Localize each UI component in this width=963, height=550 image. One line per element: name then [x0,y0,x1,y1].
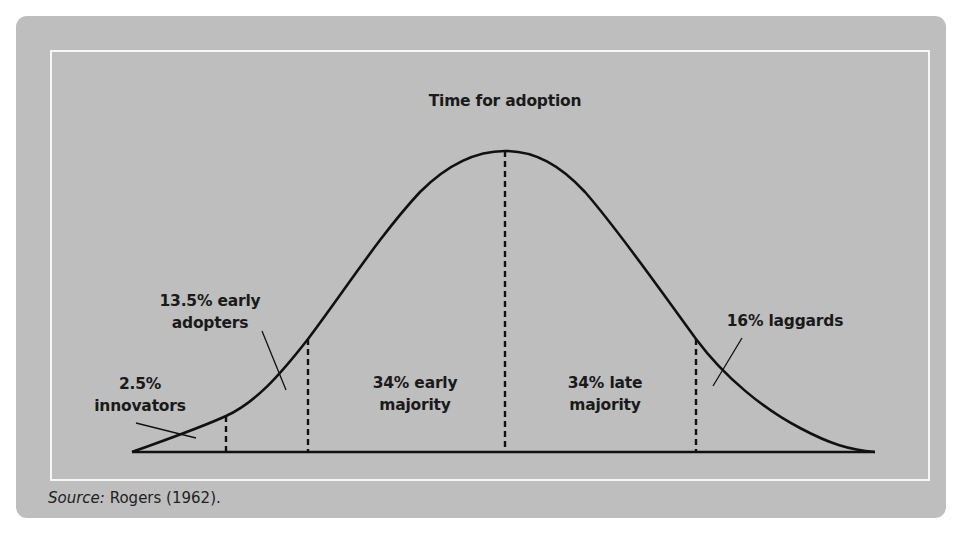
label-innovators: 2.5% innovators [80,373,200,417]
adoption-curve-chart [0,0,963,550]
source-note: Source: Rogers (1962). [48,489,221,507]
label-early-majority-name: majority [350,394,480,416]
label-late-majority: 34% late majority [540,372,670,416]
chart-title: Time for adoption [400,90,610,112]
label-early-majority-pct: 34% early [350,372,480,394]
leader-laggards [713,338,742,386]
label-late-majority-name: majority [540,394,670,416]
label-laggards-text: 16% laggards [710,310,860,332]
label-laggards: 16% laggards [710,310,860,332]
label-early-adopters: 13.5% early adopters [140,290,280,334]
label-innovators-pct: 2.5% [80,373,200,395]
label-early-adopters-name: adopters [140,312,280,334]
label-early-adopters-pct: 13.5% early [140,290,280,312]
label-late-majority-pct: 34% late [540,372,670,394]
source-citation: Rogers (1962). [110,489,221,507]
source-label: Source: [48,489,105,507]
label-innovators-name: innovators [80,395,200,417]
label-early-majority: 34% early majority [350,372,480,416]
